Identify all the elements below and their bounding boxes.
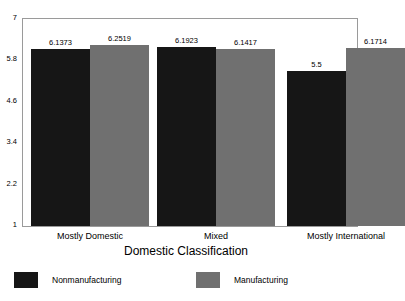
y-axis-tick-label: 5.8 (7, 55, 17, 63)
y-axis-tick-label: 2.2 (7, 180, 17, 188)
bar-slot: 6.1923 (157, 19, 216, 226)
bar-group: 5.5 6.1714 (287, 19, 405, 226)
bar-value-label: 6.1923 (175, 36, 198, 45)
bar-slot: 6.2519 (90, 19, 149, 226)
bar-nonmanufacturing[interactable]: 6.1923 (157, 47, 216, 226)
y-axis-tick-label: 1 (13, 221, 17, 229)
bar-slot: 6.1714 (346, 19, 405, 226)
legend-item-nonmanufacturing[interactable]: Nonmanufacturing (14, 272, 121, 288)
y-axis-tick-label: 3.4 (7, 138, 17, 146)
bar-value-label: 6.1373 (49, 38, 72, 47)
bar-value-label: 6.1714 (364, 37, 387, 46)
x-axis-category-label: Mixed (157, 229, 275, 243)
bar-group: 6.1923 6.1417 (157, 19, 275, 226)
x-axis: Mostly Domestic Mixed Mostly Internation… (23, 229, 357, 243)
bar-manufacturing[interactable]: 6.1417 (216, 49, 275, 226)
bar-manufacturing[interactable]: 6.2519 (90, 45, 149, 226)
bar-slot: 6.1373 (31, 19, 90, 226)
y-axis-tick-label: 7 (13, 14, 17, 22)
bar-value-label: 5.5 (311, 60, 321, 69)
legend-swatch-icon (14, 272, 38, 288)
x-axis-title: Domestic Classification (0, 244, 372, 259)
chart-legend: Nonmanufacturing Manufacturing (0, 272, 372, 296)
legend-item-label: Manufacturing (234, 275, 288, 285)
bars-area: 6.1373 6.2519 6.1923 6.1417 (23, 19, 357, 226)
legend-item-label: Nonmanufacturing (52, 275, 121, 285)
bar-manufacturing[interactable]: 6.1714 (346, 48, 405, 226)
legend-swatch-icon (196, 272, 220, 288)
bar-value-label: 6.2519 (108, 34, 131, 43)
bar-slot: 5.5 (287, 19, 346, 226)
x-axis-category-label: Mostly International (287, 229, 405, 243)
bar-nonmanufacturing[interactable]: 6.1373 (31, 49, 90, 226)
y-axis-tick-label: 4.6 (7, 97, 17, 105)
legend-item-manufacturing[interactable]: Manufacturing (196, 272, 288, 288)
bar-group: 6.1373 6.2519 (31, 19, 149, 226)
bar-slot: 6.1417 (216, 19, 275, 226)
bar-value-label: 6.1417 (234, 38, 257, 47)
bar-nonmanufacturing[interactable]: 5.5 (287, 71, 346, 226)
y-axis: 7 5.8 4.6 3.4 2.2 1 (0, 18, 20, 227)
x-axis-category-label: Mostly Domestic (31, 229, 149, 243)
